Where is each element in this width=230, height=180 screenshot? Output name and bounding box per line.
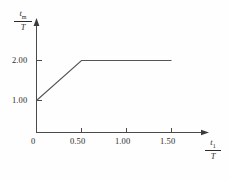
- x-tick-label-100: 1.00: [115, 136, 130, 146]
- data-series-line: [37, 61, 172, 101]
- x-tick-label-150: 1.50: [160, 136, 175, 146]
- y-axis-label: tm T: [14, 9, 32, 31]
- chart-plot-area: [0, 0, 230, 180]
- y-axis-label-denominator: T: [14, 22, 32, 31]
- y-axis-label-subscript: m: [22, 14, 27, 20]
- x-axis-label-subscript: 1: [213, 143, 216, 149]
- y-tick-label-1: 1.00: [12, 95, 27, 105]
- y-axis-arrow-icon: [34, 18, 40, 26]
- x-tick-label-0: 0: [31, 136, 35, 146]
- y-axis-label-numerator: tm: [14, 9, 32, 20]
- x-tick-label-050: 0.50: [70, 136, 85, 146]
- x-axis-label-numerator: t1: [205, 138, 221, 149]
- chart-figure: 2.00 1.00 0 0.50 1.00 1.50 tm T t1 T: [0, 0, 230, 180]
- y-tick-label-2: 2.00: [12, 55, 27, 65]
- x-axis-label-denominator: T: [205, 151, 221, 160]
- x-axis-arrow-icon: [201, 130, 209, 135]
- x-axis-label: t1 T: [205, 138, 221, 160]
